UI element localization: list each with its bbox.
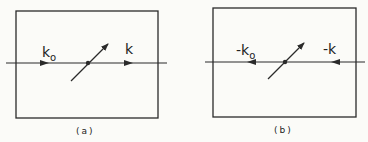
panel-b-caption: (b) bbox=[274, 125, 293, 135]
arrow-left-icon bbox=[331, 59, 340, 65]
panel-b-outgoing-label: -k bbox=[323, 41, 337, 57]
panel-b: -ko -k (b) bbox=[205, 8, 365, 135]
vertex-dot-icon bbox=[86, 61, 90, 65]
panel-a: ko k (a) bbox=[6, 11, 167, 136]
vertex-dot-icon bbox=[283, 60, 287, 64]
scattering-diagram: ko k (a) -ko -k (b) bbox=[0, 0, 368, 142]
panel-a-caption: (a) bbox=[76, 126, 95, 136]
panel-a-outgoing-label: k bbox=[125, 41, 134, 57]
panel-a-incoming-label: ko bbox=[42, 44, 56, 63]
arrow-right-icon bbox=[40, 60, 49, 66]
panel-b-incoming-label: -ko bbox=[236, 42, 255, 61]
arrow-right-icon bbox=[124, 60, 133, 66]
